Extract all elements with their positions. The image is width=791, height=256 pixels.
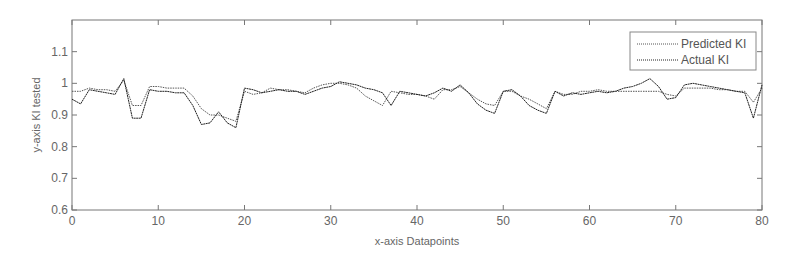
x-tick-label: 60 (583, 214, 597, 228)
legend-label-actual: Actual KI (681, 53, 729, 67)
x-tick-label: 70 (669, 214, 683, 228)
y-tick-label: 0.9 (51, 108, 68, 122)
y-tick-label: 0.7 (51, 171, 68, 185)
x-axis-label: x-axis Datapoints (375, 235, 460, 247)
x-tick-label: 0 (69, 214, 76, 228)
x-tick-label: 30 (324, 214, 338, 228)
y-tick-label: 1 (61, 76, 68, 90)
y-axis-label: y-axis KI tested (30, 77, 42, 152)
x-tick-label: 80 (755, 214, 769, 228)
x-tick-label: 40 (410, 214, 424, 228)
line-chart: 0.60.70.80.911.1 01020304050607080 x-axi… (0, 0, 791, 256)
x-tick-label: 10 (152, 214, 166, 228)
legend-label-predicted: Predicted KI (681, 37, 746, 51)
y-tick-label: 0.8 (51, 140, 68, 154)
legend: Predicted KI Actual KI (630, 32, 756, 70)
y-tick-label: 0.6 (51, 203, 68, 217)
x-tick-label: 20 (238, 214, 252, 228)
y-tick-label: 1.1 (51, 45, 68, 59)
x-tick-label: 50 (497, 214, 511, 228)
